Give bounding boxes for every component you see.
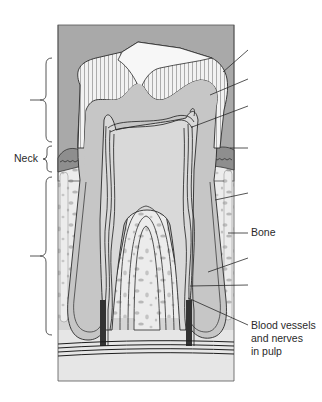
- root-bracket: [40, 177, 52, 335]
- neck-bracket: [43, 146, 52, 172]
- label-blood-vessels-nerves: Blood vessels and nerves in pulp: [251, 319, 316, 358]
- label-bone: Bone: [251, 226, 276, 239]
- crown-bracket: [40, 58, 52, 142]
- label-neck: Neck: [14, 152, 38, 165]
